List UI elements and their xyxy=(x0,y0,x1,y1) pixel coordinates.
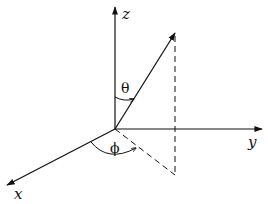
theta-label: θ xyxy=(121,80,129,96)
spherical-coordinates-diagram: z y x θ ϕ xyxy=(0,0,268,204)
z-axis-label: z xyxy=(121,5,130,23)
x-axis xyxy=(7,129,115,185)
horizontal-projection-line xyxy=(115,129,175,175)
y-axis-label: y xyxy=(247,133,257,151)
theta-arc xyxy=(115,97,134,100)
x-axis-label: x xyxy=(14,185,23,203)
phi-label: ϕ xyxy=(110,140,120,156)
